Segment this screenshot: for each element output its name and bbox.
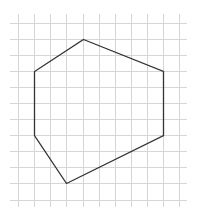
grid-lines xyxy=(10,14,187,207)
grid-diagram xyxy=(0,0,197,219)
